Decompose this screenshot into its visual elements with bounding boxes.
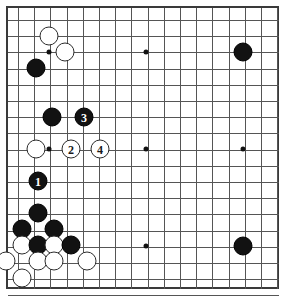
grid-line-vertical (180, 8, 181, 289)
white-stone-edge-a17[interactable] (0, 252, 16, 271)
stone-move-number: 1 (30, 173, 47, 190)
hoshi-center (144, 147, 149, 152)
grid-line-horizontal (8, 166, 279, 167)
grid-line-horizontal (8, 69, 279, 70)
grid-line-horizontal (8, 101, 279, 102)
hoshi-upper-mid (144, 50, 149, 55)
black-stone-upper-right-hoshi[interactable] (234, 43, 253, 62)
hoshi-center-left (47, 147, 52, 152)
grid-line-vertical (229, 8, 230, 289)
grid-line-horizontal (8, 85, 279, 86)
grid-line-horizontal (8, 198, 279, 199)
white-stone-e17[interactable] (78, 252, 97, 271)
stone-move-number: 3 (76, 109, 93, 126)
hoshi-upper-left (47, 50, 52, 55)
white-stone-move-4[interactable]: 4 (91, 140, 110, 159)
grid-line-vertical (196, 8, 197, 289)
grid-line-horizontal (8, 279, 279, 280)
grid-line-horizontal (8, 133, 279, 134)
grid-line-horizontal (8, 182, 279, 183)
stone-move-number: 2 (63, 141, 80, 158)
white-stone-move-2[interactable]: 2 (62, 140, 81, 159)
black-stone-b14[interactable] (29, 204, 48, 223)
black-stone-c8[interactable] (43, 108, 62, 127)
grid-line-vertical (164, 8, 165, 289)
hoshi-lower-mid (144, 244, 149, 249)
black-stone-move-3[interactable]: 3 (75, 108, 94, 127)
grid-line-vertical (212, 8, 213, 289)
white-stone-d4[interactable] (56, 43, 75, 62)
white-stone-c17[interactable] (45, 252, 64, 271)
go-board-diagram: 3241 (0, 0, 287, 303)
hoshi-center-right (241, 147, 246, 152)
grid-line-vertical (83, 8, 84, 289)
grid-line-horizontal (8, 20, 279, 21)
black-stone-d16[interactable] (62, 236, 81, 255)
grid-line-horizontal (8, 295, 279, 296)
black-stone-b5[interactable] (27, 59, 46, 78)
grid-line-vertical (131, 8, 132, 289)
white-stone-a18[interactable] (13, 269, 32, 288)
white-stone-b10[interactable] (27, 140, 46, 159)
board-frame: 3241 (6, 6, 279, 289)
black-stone-move-1[interactable]: 1 (29, 172, 48, 191)
white-stone-c3a[interactable] (40, 27, 59, 46)
grid-line-vertical (277, 8, 278, 289)
stone-move-number: 4 (92, 141, 109, 158)
grid-line-vertical (115, 8, 116, 289)
grid-line-horizontal (8, 214, 279, 215)
grid-line-vertical (261, 8, 262, 289)
black-stone-lower-right-hoshi[interactable] (234, 237, 253, 256)
